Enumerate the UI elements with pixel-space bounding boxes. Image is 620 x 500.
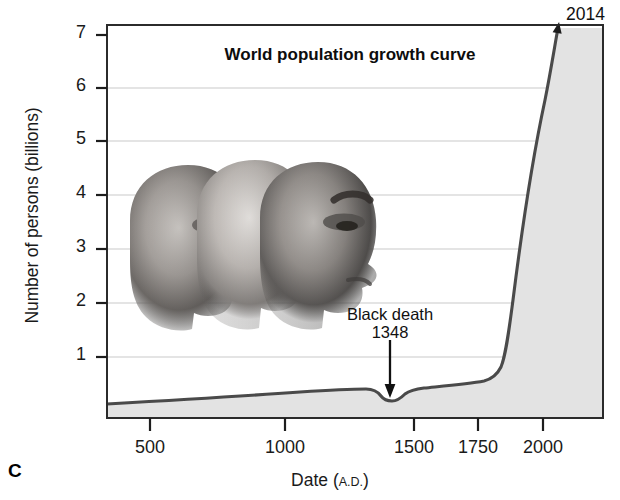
x-axis-ticks [150, 418, 543, 431]
panel-label: C [8, 460, 22, 482]
black-death-label: Black death [315, 305, 465, 323]
y-tick-label-3: 3 [52, 236, 86, 257]
x-axis-title-end: ) [363, 470, 369, 490]
x-tick-label-1000: 1000 [250, 437, 320, 458]
x-tick-label-1750: 1750 [443, 437, 513, 458]
x-axis-title: Date (A.D.) [230, 470, 430, 491]
y-tick-label-6: 6 [52, 75, 86, 96]
population-growth-chart [0, 0, 620, 500]
y-tick-label-4: 4 [52, 182, 86, 203]
x-tick-label-2000: 2000 [508, 437, 578, 458]
black-death-annotation: Black death 1348 [315, 305, 465, 342]
x-axis-title-ad: A.D. [339, 475, 363, 489]
chart-title: World population growth curve [160, 45, 540, 65]
x-axis-title-main: Date ( [291, 470, 339, 490]
figure-panel-c: World population growth curve Number of … [0, 0, 620, 500]
black-death-year: 1348 [315, 323, 465, 341]
y-tick-label-1: 1 [52, 344, 86, 365]
end-year-annotation: 2014 [566, 4, 605, 25]
y-axis-title: Number of persons (billions) [22, 66, 43, 366]
x-tick-label-1500: 1500 [379, 437, 449, 458]
y-tick-label-7: 7 [52, 22, 86, 43]
y-axis-ticks [96, 35, 107, 357]
y-tick-label-5: 5 [52, 128, 86, 149]
y-tick-label-2: 2 [52, 290, 86, 311]
x-tick-label-500: 500 [115, 437, 185, 458]
